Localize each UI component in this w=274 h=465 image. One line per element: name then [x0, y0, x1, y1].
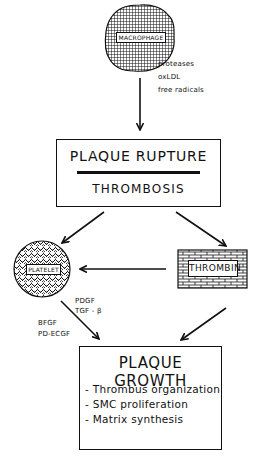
- plaque-rupture-box: PLAQUE RUPTURE THROMBOSIS: [56, 139, 221, 207]
- platelet-label: PLATELET: [26, 264, 61, 275]
- divider-bar: [77, 171, 200, 174]
- edge-label-bfgf: BFGF: [38, 318, 57, 329]
- plaque-growth-box: PLAQUE GROWTH - Thrombus organization - …: [79, 346, 222, 450]
- arrow-rupture-to-platelet: [62, 212, 104, 243]
- plaque-rupture-title: PLAQUE RUPTURE: [57, 148, 220, 164]
- list-item: - Thrombus organization: [85, 382, 220, 397]
- edge-label-pd-ecgf: PD-ECGF: [38, 329, 70, 340]
- list-item: - Matrix synthesis: [85, 412, 220, 427]
- arrow-rupture-to-thrombin: [176, 212, 226, 246]
- thrombin-label: THROMBIN: [188, 260, 238, 277]
- plaque-growth-list: - Thrombus organization - SMC proliferat…: [85, 382, 220, 427]
- arrow-thrombin-to-growth: [181, 308, 226, 340]
- edge-label-oxldl: oxLDL: [158, 72, 180, 83]
- thrombosis-label: THROMBOSIS: [57, 182, 220, 196]
- list-item: - SMC proliferation: [85, 397, 220, 412]
- edge-label-proteases: proteases: [158, 59, 194, 70]
- macrophage-label: MACROPHAGE: [116, 32, 166, 43]
- edge-label-tgf-beta: TGF - β: [75, 306, 102, 317]
- edge-label-free-radicals: free radicals: [158, 85, 204, 96]
